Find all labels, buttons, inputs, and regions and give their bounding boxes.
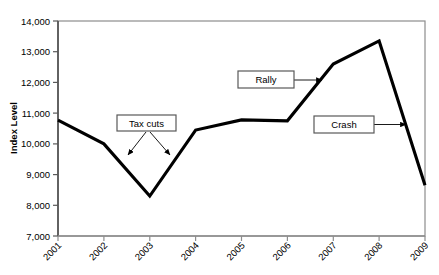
- annotation-label-rally: Rally: [255, 74, 276, 85]
- y-tick-label-8000: 8,000: [26, 200, 50, 211]
- y-tick-label-14000: 14,000: [21, 16, 50, 27]
- y-tick-label-10000: 10,000: [21, 138, 50, 149]
- x-tick-label-2006: 2006: [270, 240, 293, 263]
- chart-canvas: 14,000 13,000 12,000 11,000 10,000 9,000…: [0, 0, 439, 275]
- x-tick-label-2008: 2008: [362, 240, 385, 263]
- x-tick-label-2005: 2005: [224, 240, 247, 263]
- y-tick-label-12000: 12,000: [21, 77, 50, 88]
- y-tick-label-13000: 13,000: [21, 46, 50, 57]
- x-tick-label-2007: 2007: [316, 240, 339, 263]
- y-axis-title: Index Level: [8, 102, 19, 154]
- x-tick-label-2004: 2004: [178, 240, 201, 263]
- x-tick-label-2002: 2002: [87, 240, 110, 263]
- x-axis-ticks: [58, 236, 425, 241]
- x-tick-label-2003: 2003: [132, 240, 155, 263]
- annotation-label-crash: Crash: [331, 119, 356, 130]
- y-tick-label-7000: 7,000: [26, 231, 50, 242]
- x-tick-label-2001: 2001: [41, 240, 64, 263]
- y-tick-label-11000: 11,000: [22, 108, 50, 119]
- y-tick-label-9000: 9,000: [26, 169, 50, 180]
- line-chart: 14,000 13,000 12,000 11,000 10,000 9,000…: [0, 0, 439, 275]
- annotation-label-tax-cuts: Tax cuts: [129, 118, 164, 129]
- x-tick-label-2009: 2009: [408, 240, 431, 263]
